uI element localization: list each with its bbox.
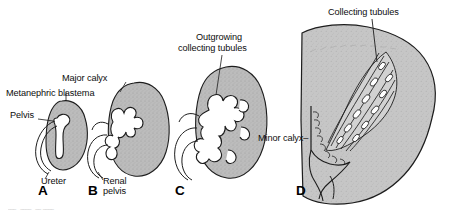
panel-d-art xyxy=(301,19,435,204)
label-collecting-tubules: Collecting tubules xyxy=(328,7,399,17)
label-outgrowing-line2: collecting tubules xyxy=(178,43,247,53)
label-pelvis: Pelvis xyxy=(10,110,34,120)
cropped-caption: ‾‾‾ ‾‾‾‾ ‾‾ ‾‾‾‾ xyxy=(8,208,455,215)
label-outgrowing-line1: Outgrowing xyxy=(196,32,242,42)
panel-a-art xyxy=(36,92,88,179)
figure-container: Metanephric blastema Pelvis Ureter Major… xyxy=(0,0,455,215)
panel-letter-c: C xyxy=(175,183,185,198)
label-metanephric-blastema: Metanephric blastema xyxy=(6,88,94,98)
panel-letter-b: B xyxy=(88,183,98,198)
label-renal-pelvis-line1: Renal xyxy=(103,176,127,186)
panel-letter-d: D xyxy=(296,183,306,198)
label-renal-pelvis-line2: pelvis xyxy=(103,186,126,196)
panel-letter-a: A xyxy=(38,183,48,198)
metanephric-blastema-shape xyxy=(46,101,87,170)
label-minor-calyx: Minor calyx– xyxy=(258,133,308,143)
panel-c-art xyxy=(175,55,267,180)
panel-b-art xyxy=(88,82,170,180)
label-major-calyx: Major calyx xyxy=(62,73,107,83)
